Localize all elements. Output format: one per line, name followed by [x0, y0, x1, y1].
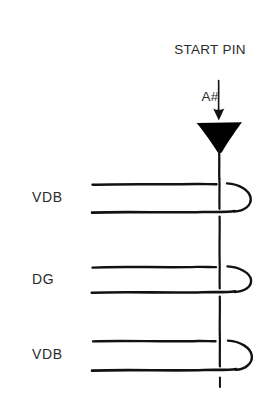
start-pin-label-line2: A# [155, 89, 265, 104]
row-group-0 [92, 179, 251, 258]
row-label-0: VDB [32, 190, 63, 206]
row-group-2 [92, 335, 252, 388]
row-label-1: DG [32, 272, 54, 288]
diagram-canvas: START PIN A# VDB DG VDB [0, 0, 280, 402]
start-pin-label: START PIN A# [155, 12, 265, 134]
row-label-2: VDB [32, 347, 63, 363]
row-group-1 [92, 259, 251, 334]
start-pin-label-line1: START PIN [155, 42, 265, 57]
